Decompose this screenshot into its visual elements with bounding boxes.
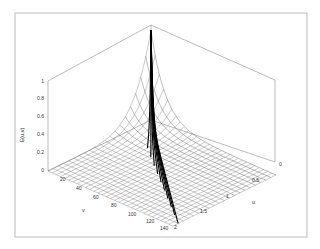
z-tick-0: 0	[41, 167, 44, 173]
u-tick-1.5: 1.5	[200, 208, 207, 214]
z-tick-0.2: 0.2	[37, 149, 44, 155]
z-axis-label: E(u,v)	[19, 127, 25, 142]
z-tick-0.8: 0.8	[37, 95, 44, 101]
u-tick-0: 0	[279, 161, 282, 167]
z-tick-0.4: 0.4	[37, 131, 44, 137]
v-tick-40: 40	[76, 185, 82, 191]
figure-frame	[15, 13, 307, 237]
v-tick-140: 140	[160, 225, 169, 231]
surface-plot: 0 0.2 0.4 0.6 0.8 1 E(u,v) 20 40 60 80 1…	[0, 0, 320, 249]
u-tick-2: 2	[174, 224, 177, 230]
u-tick-0.5: 0.5	[252, 177, 259, 183]
v-tick-20: 20	[60, 176, 66, 182]
z-tick-1: 1	[41, 78, 44, 84]
u-axis-label: u	[252, 199, 255, 205]
u-tick-1: 1	[226, 193, 229, 199]
z-tick-0.6: 0.6	[37, 113, 44, 119]
v-tick-80: 80	[111, 202, 117, 208]
v-axis-label: v	[82, 207, 85, 213]
v-tick-120: 120	[146, 218, 155, 224]
v-tick-60: 60	[93, 194, 99, 200]
v-tick-100: 100	[128, 211, 137, 217]
